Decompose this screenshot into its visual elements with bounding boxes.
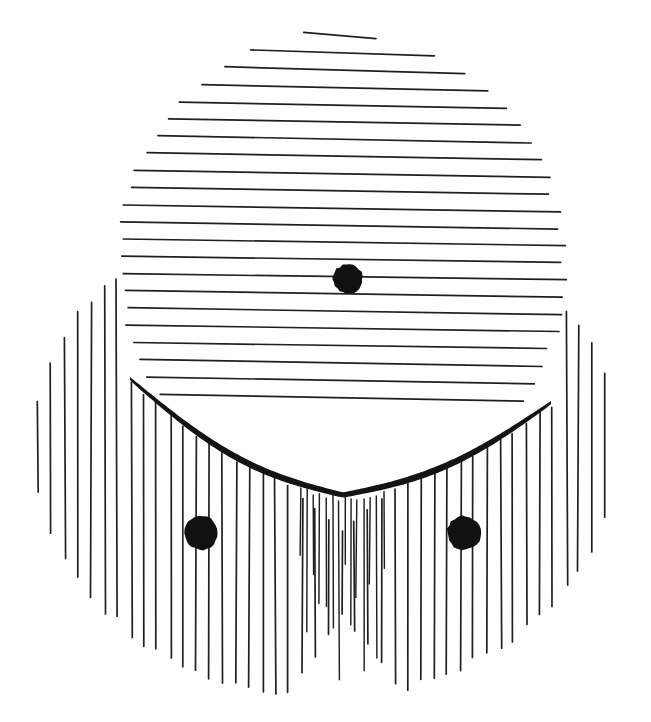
hatch-line-vertical-notch [319,494,320,604]
hatch-line-vertical [91,302,92,597]
hatch-line-vertical [209,441,210,679]
hatch-line-vertical [421,476,422,679]
hatch-line-vertical [501,438,502,649]
hatch-line-vertical [249,465,250,687]
hatch-line-vertical [131,382,132,638]
hatch-line-vertical-notch [356,500,357,598]
hatch-line-vertical [526,424,527,625]
hatch-line-vertical [222,453,223,683]
hatch-line-vertical [105,286,106,614]
hatch-line-vertical [367,510,368,644]
hatch-line-vertical [116,279,117,616]
hatch-line-vertical [196,437,197,671]
hatch-line-vertical [354,521,355,631]
background [0,0,651,722]
hatch-line-vertical [37,402,38,492]
hatch-line-vertical [395,489,396,684]
hatch-line-vertical [315,509,316,657]
hatch-line-vertical [302,499,303,673]
hatch-line-vertical [487,447,488,653]
hatch-line-vertical [446,466,447,674]
hatch-line-vertical [434,471,435,678]
hatch-line-vertical-notch [300,488,301,555]
hatch-line-vertical [461,461,462,671]
artboard: Hatched Face Figure Abstract hand-drawn … [0,0,651,722]
hatch-line-vertical [236,462,237,683]
hatch-line-vertical-notch [369,498,370,584]
hatch-line-vertical-notch [339,501,340,680]
hatch-line-vertical-notch [376,496,377,658]
hatch-line-vertical [64,338,65,559]
hatch-line-vertical [539,412,540,615]
illustration-canvas [0,0,651,722]
